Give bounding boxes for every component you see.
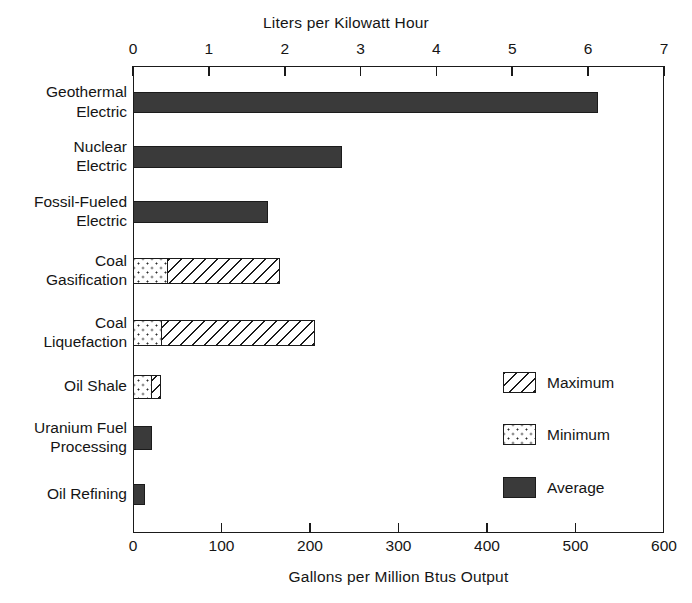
bar-segment-minimum — [133, 320, 162, 346]
category-label: CoalGasification — [0, 251, 127, 290]
legend-item: Maximum — [503, 372, 663, 394]
category-label-line: Nuclear — [0, 137, 127, 157]
category-label: NuclearElectric — [0, 137, 127, 176]
top-tick-mark — [132, 66, 134, 76]
legend-swatch — [503, 372, 536, 393]
top-tick-label: 7 — [634, 40, 692, 58]
bar-segment-minimum — [133, 375, 152, 399]
top-tick-mark — [360, 66, 362, 76]
table-row — [133, 146, 664, 168]
top-tick-mark — [208, 66, 210, 76]
top-tick-label: 5 — [482, 40, 542, 58]
top-tick-label: 4 — [406, 40, 466, 58]
top-tick-label: 1 — [179, 40, 239, 58]
table-row — [133, 320, 664, 346]
category-label: Fossil-FueledElectric — [0, 192, 127, 231]
bottom-tick-label: 200 — [275, 537, 345, 555]
bar-segment-average — [133, 201, 268, 223]
category-label-line: Liquefaction — [0, 332, 127, 352]
bottom-axis-title: Gallons per Million Btus Output — [133, 568, 664, 586]
table-row — [133, 201, 664, 223]
category-label-line: Coal — [0, 313, 127, 333]
category-label-line: Processing — [0, 437, 127, 457]
legend-swatch — [503, 477, 536, 498]
top-axis-title: Liters per Kilowatt Hour — [0, 14, 692, 32]
bottom-tick-mark — [398, 523, 400, 533]
top-tick-label: 2 — [255, 40, 315, 58]
chart-canvas: Liters per Kilowatt Hour Gallons per Mil… — [0, 0, 692, 603]
category-label-line: Uranium Fuel — [0, 418, 127, 438]
category-label-line: Oil Shale — [0, 376, 127, 396]
bar-segment-average — [133, 426, 152, 450]
category-label-line: Geothermal — [0, 82, 127, 102]
table-row — [133, 258, 664, 284]
top-tick-mark — [587, 66, 589, 76]
table-row — [133, 92, 664, 113]
bottom-tick-mark — [221, 523, 223, 533]
category-label-line: Fossil-Fueled — [0, 192, 127, 212]
bottom-tick-label: 100 — [187, 537, 257, 555]
top-tick-mark — [436, 66, 438, 76]
top-tick-label: 0 — [103, 40, 163, 58]
legend-item: Average — [503, 477, 663, 499]
bar-segment-average — [133, 146, 342, 168]
bar-segment-average — [133, 92, 598, 113]
bottom-tick-label: 300 — [364, 537, 434, 555]
top-tick-mark — [284, 66, 286, 76]
bottom-tick-mark — [486, 523, 488, 533]
legend-label: Minimum — [547, 424, 610, 445]
bar-segment-minimum — [133, 258, 168, 284]
top-tick-label: 3 — [331, 40, 391, 58]
bottom-tick-mark — [575, 523, 577, 533]
category-label: CoalLiquefaction — [0, 313, 127, 352]
category-label-line: Oil Refining — [0, 484, 127, 504]
legend-swatch — [503, 424, 536, 445]
legend-item: Minimum — [503, 424, 663, 446]
category-label: GeothermalElectric — [0, 82, 127, 121]
category-label-line: Electric — [0, 211, 127, 231]
top-tick-mark — [663, 66, 665, 76]
bottom-tick-mark — [309, 523, 311, 533]
category-label: Oil Shale — [0, 376, 127, 396]
bottom-tick-label: 500 — [541, 537, 611, 555]
category-label-line: Coal — [0, 251, 127, 271]
bottom-tick-label: 600 — [629, 537, 692, 555]
top-tick-label: 6 — [558, 40, 618, 58]
top-tick-mark — [511, 66, 513, 76]
legend-label: Average — [547, 477, 604, 498]
bar-segment-average — [133, 484, 145, 505]
plot-frame — [133, 66, 664, 533]
bottom-tick-label: 400 — [452, 537, 522, 555]
bottom-tick-label: 0 — [98, 537, 168, 555]
legend-label: Maximum — [547, 372, 614, 393]
category-label: Uranium FuelProcessing — [0, 418, 127, 457]
category-label-line: Electric — [0, 102, 127, 122]
category-label: Oil Refining — [0, 484, 127, 504]
category-label-line: Gasification — [0, 270, 127, 290]
category-label-line: Electric — [0, 156, 127, 176]
